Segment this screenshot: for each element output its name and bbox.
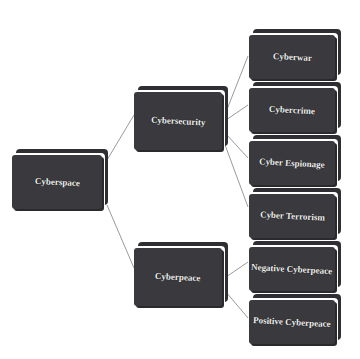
- link-cyberpeace-positive: [226, 292, 248, 318]
- node-label: Cyberspace: [34, 176, 79, 188]
- node-label: Positive Cyberpeace: [253, 315, 331, 329]
- link-cybersecurity-espionage: [226, 134, 248, 158]
- node-cybercrime: Cybercrime: [249, 88, 335, 132]
- node-label: Cyber Terrorism: [259, 209, 324, 222]
- node-cyberspace: Cyberspace: [12, 155, 102, 209]
- node-cyberwar: Cyberwar: [249, 35, 335, 79]
- node-label: Cyberpeace: [155, 271, 201, 283]
- node-label: Negative Cyberpeace: [251, 262, 333, 276]
- link-cybersecurity-cybercrime: [226, 105, 248, 120]
- node-cyber-espionage: Cyber Espionage: [249, 141, 335, 185]
- node-label: Cybersecurity: [151, 115, 206, 128]
- link-cyberspace-cybersecurity: [107, 115, 134, 160]
- node-label: Cyberwar: [272, 51, 311, 63]
- node-positive-cyberpeace: Positive Cyberpeace: [249, 300, 335, 344]
- node-negative-cyberpeace: Negative Cyberpeace: [249, 247, 335, 291]
- link-cybersecurity-terrorism: [224, 142, 248, 207]
- link-cyberspace-cyberpeace: [107, 205, 134, 268]
- link-cybersecurity-cyberwar: [226, 56, 248, 112]
- link-cyberpeace-negative: [226, 262, 248, 277]
- node-cyberpeace: Cyberpeace: [134, 248, 222, 306]
- node-cybersecurity: Cybersecurity: [134, 92, 222, 150]
- node-label: Cybercrime: [269, 104, 315, 116]
- node-label: Cyber Espionage: [259, 156, 325, 169]
- node-cyber-terrorism: Cyber Terrorism: [249, 194, 335, 238]
